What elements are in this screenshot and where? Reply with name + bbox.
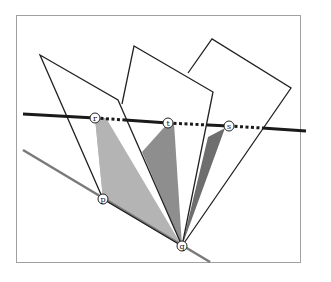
point-s: s [224, 121, 234, 131]
point-q-label: q [179, 242, 184, 251]
point-p-label: p [100, 195, 105, 204]
point-r-label: r [93, 114, 97, 123]
diagram-canvas: r t s p q [0, 0, 331, 282]
point-t: t [163, 118, 173, 128]
point-s-label: s [227, 122, 231, 131]
point-r: r [90, 113, 100, 123]
point-q: q [177, 241, 187, 251]
point-p: p [98, 194, 108, 204]
